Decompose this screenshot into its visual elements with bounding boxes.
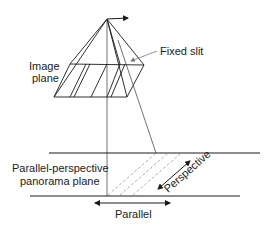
slit-camera-diagram: Image plane Fixed slit Parallel-perspect… [0, 0, 270, 227]
panorama-label-line1: Parallel-perspective [12, 162, 109, 174]
image-plane [54, 64, 144, 97]
fixed-slit-label: Fixed slit [160, 45, 203, 57]
parallel-label: Parallel [115, 208, 152, 220]
image-plane-label-line2: plane [32, 72, 59, 84]
panorama-label-line2: panorama plane [20, 175, 100, 187]
image-plane-label-line1: Image [29, 60, 60, 72]
camera-motion-arrow [107, 18, 128, 19]
projection-pyramid [54, 19, 144, 97]
perspective-label: Perspective [161, 148, 212, 195]
fixed-slit-leader [131, 51, 157, 61]
